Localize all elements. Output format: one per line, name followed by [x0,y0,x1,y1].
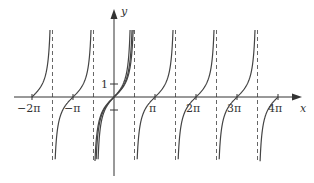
labels: y x 1 −2π −π π 2π 3π 4π [17,5,307,115]
x-tick-label-neg-2pi: −2π [17,102,40,115]
tangent-graph: y x 1 −2π −π π 2π 3π 4π [0,0,314,183]
x-tick-label-2pi: 2π [186,102,200,115]
axes [14,9,302,176]
x-tick-label-3pi: 3π [227,102,241,115]
x-tick-label-4pi: 4π [268,102,282,115]
y-tick-label-1: 1 [101,78,108,91]
x-axis-label: x [300,102,307,115]
y-axis-label: y [120,5,128,18]
y-axis-arrow-icon [111,9,118,19]
x-tick-label-pi: π [149,102,156,115]
x-tick-label-neg-pi: −π [64,102,80,115]
tan-curve-branch [32,30,50,97]
x-axis-arrow-icon [292,94,302,101]
